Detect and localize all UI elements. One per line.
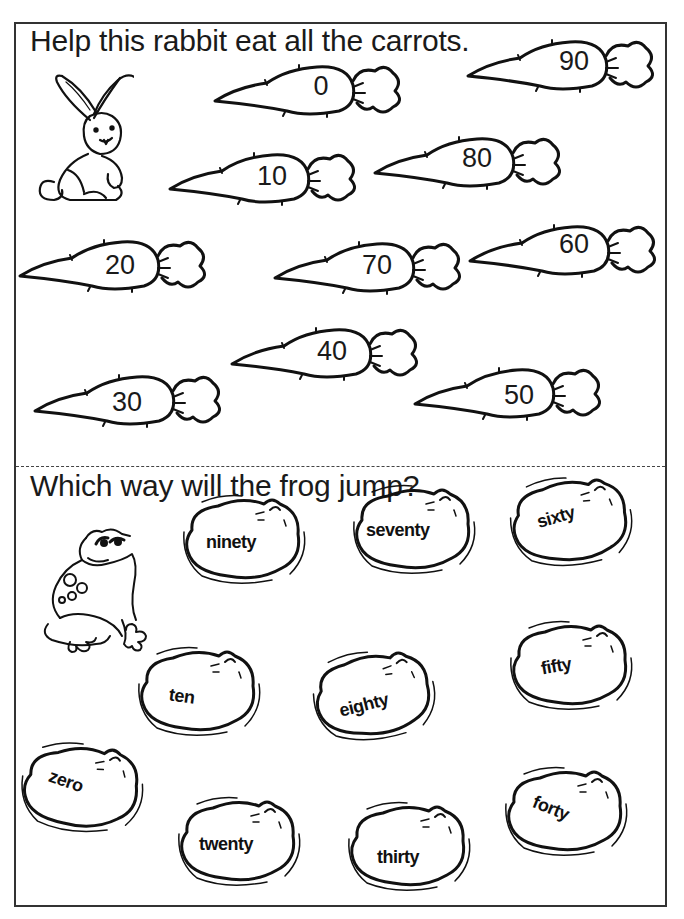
lily-pad-word: twenty bbox=[199, 834, 253, 855]
carrot-number: 40 bbox=[302, 336, 362, 367]
lily-pad-sixty[interactable]: sixty bbox=[496, 467, 643, 577]
lily-pad-ninety[interactable]: ninety bbox=[172, 490, 312, 590]
frog-icon bbox=[26, 524, 156, 659]
lily-pad-fifty[interactable]: fifty bbox=[499, 616, 639, 716]
carrot-40[interactable]: 40 bbox=[224, 320, 424, 390]
carrot-70[interactable]: 70 bbox=[267, 234, 467, 304]
carrot-10[interactable]: 10 bbox=[162, 145, 362, 215]
carrot-80[interactable]: 80 bbox=[367, 129, 567, 199]
carrot-number: 80 bbox=[447, 143, 507, 174]
lily-pad-seventy[interactable]: seventy bbox=[342, 480, 482, 580]
carrot-20[interactable]: 20 bbox=[12, 232, 212, 302]
section-divider bbox=[16, 466, 665, 467]
lily-pad-forty[interactable]: forty bbox=[494, 762, 634, 862]
worksheet-frame: Help this rabbit eat all the carrots. 0 … bbox=[14, 22, 667, 907]
lily-pad-word: thirty bbox=[377, 847, 419, 868]
carrot-0[interactable]: 0 bbox=[207, 57, 407, 127]
carrot-number: 10 bbox=[242, 161, 302, 192]
carrot-60[interactable]: 60 bbox=[462, 217, 662, 287]
carrot-30[interactable]: 30 bbox=[27, 367, 227, 437]
carrot-50[interactable]: 50 bbox=[407, 360, 607, 430]
carrot-number: 0 bbox=[291, 71, 351, 102]
carrot-number: 60 bbox=[544, 229, 604, 260]
rabbit-icon bbox=[24, 70, 134, 205]
lily-pad-eighty[interactable]: eighty bbox=[297, 639, 447, 753]
lily-pad-word: ninety bbox=[206, 532, 256, 553]
carrot-number: 70 bbox=[347, 250, 407, 281]
lily-pad-twenty[interactable]: twenty bbox=[167, 792, 307, 892]
lily-pad-word: seventy bbox=[366, 520, 430, 541]
lily-pad-zero[interactable]: zero bbox=[7, 733, 154, 843]
carrot-number: 20 bbox=[90, 250, 150, 281]
carrot-number: 30 bbox=[97, 387, 157, 418]
carrot-90[interactable]: 90 bbox=[460, 32, 660, 102]
lily-pad-ten[interactable]: ten bbox=[127, 642, 267, 742]
lily-pad-icon bbox=[127, 642, 267, 742]
lily-pad-word: ten bbox=[168, 684, 196, 708]
carrot-number: 90 bbox=[544, 46, 604, 77]
carrot-number: 50 bbox=[489, 380, 549, 411]
lily-pad-thirty[interactable]: thirty bbox=[337, 797, 477, 897]
rabbit-instruction: Help this rabbit eat all the carrots. bbox=[30, 24, 469, 58]
